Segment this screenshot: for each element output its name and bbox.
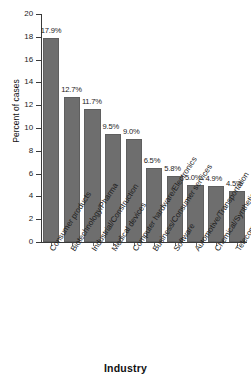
y-tick-label-text: 6	[14, 170, 33, 178]
y-tick-label: 0	[14, 238, 33, 246]
y-tick-label-text: 4	[14, 192, 33, 200]
y-tick-label: 2	[14, 215, 33, 223]
bar[interactable]	[43, 38, 59, 242]
y-tick-label-text: 18	[14, 33, 33, 41]
y-tick-label: 18	[14, 33, 33, 41]
bar-value-label: 11.7%	[82, 98, 102, 106]
y-tick-label-text: 2	[14, 215, 33, 223]
bar-value-label: 12.7%	[61, 86, 82, 94]
y-tick-label-text: 0	[14, 238, 33, 246]
bar-value-label: 9.0%	[123, 128, 140, 136]
y-tick-label: 6	[14, 170, 33, 178]
y-tick-label: 20	[14, 10, 33, 18]
y-axis-title: Percent of cases	[11, 59, 21, 163]
bar-value-label: 5.8%	[164, 165, 181, 173]
bar-value-label: 9.5%	[103, 123, 120, 131]
y-tick-label-text: 20	[14, 10, 33, 18]
bar-value-label: 17.9%	[41, 27, 62, 35]
x-axis-title: Industry	[0, 362, 251, 374]
bar-value-label: 6.5%	[144, 157, 161, 165]
bar-chart: 02468101214161820 Percent of cases 17.9%…	[0, 0, 251, 391]
y-tick-label: 4	[14, 192, 33, 200]
